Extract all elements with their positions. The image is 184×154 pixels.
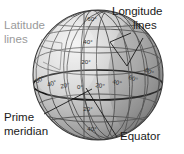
label-lon-0: 0° [77, 83, 83, 90]
latitude-lines-label-line2: lines [4, 33, 28, 45]
prime-meridian-label-line1: Prime [4, 111, 34, 123]
label-lat-60n: 60° [87, 15, 97, 22]
callout-prime-meridian: Prime meridian [4, 111, 48, 137]
label-lat-20n: 20° [81, 58, 91, 65]
label-lat-20s: 20° [83, 105, 93, 112]
callout-latitude-lines: Latitude lines [4, 19, 45, 45]
prime-meridian-label-line2: meridian [4, 125, 48, 137]
label-lat-40s: 40° [87, 125, 97, 132]
longitude-lines-label-line2: lines [133, 19, 157, 31]
globe-diagram-svg: 60° 40° 20° 20° 40° 60° 40° 20° 0° 20° 4… [0, 0, 184, 154]
label-lat-40n: 40° [83, 38, 93, 45]
callout-equator: Equator [120, 130, 160, 142]
label-lon-20e: 20° [95, 81, 106, 89]
longitude-lines-label-line1: Longitude [112, 5, 163, 17]
latitude-lines-label-line1: Latitude [4, 19, 45, 31]
equator-label: Equator [120, 130, 160, 142]
globe-diagram-canvas: 60° 40° 20° 20° 40° 60° 40° 20° 0° 20° 4… [0, 0, 184, 154]
